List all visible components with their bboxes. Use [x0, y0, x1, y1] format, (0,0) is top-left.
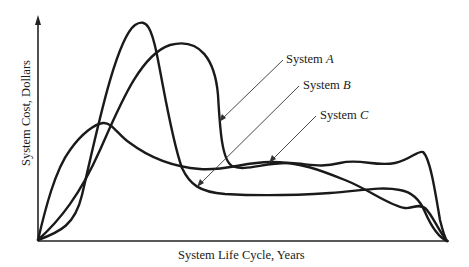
- y-axis-arrow-icon: [35, 15, 41, 25]
- life-cycle-cost-diagram: System A System B System C System Cost, …: [0, 0, 469, 267]
- x-axis-label: System Life Cycle, Years: [178, 248, 305, 262]
- arrowhead-system-b-icon: [197, 179, 204, 187]
- label-system-a: System A: [286, 52, 334, 66]
- y-axis-label: System Cost, Dollars: [19, 60, 33, 166]
- curve-system-b: [38, 23, 447, 241]
- leader-line-system-b: [199, 86, 299, 185]
- curve-system-c: [38, 123, 447, 241]
- label-system-c: System C: [320, 108, 369, 122]
- label-system-b: System B: [303, 78, 351, 92]
- leader-line-system-c: [271, 116, 316, 161]
